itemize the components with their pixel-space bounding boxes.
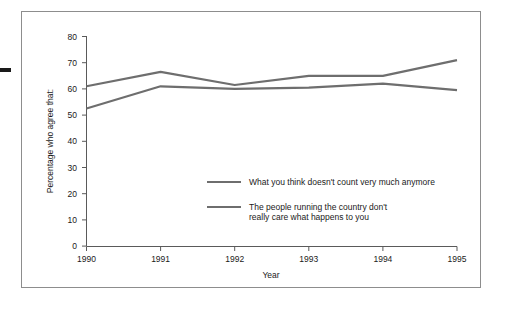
line-chart: 80 70 60 50 40 30 20 10 0 1990 1991 1992… — [0, 0, 509, 311]
y-axis-title: Percentage who agree that: — [45, 89, 55, 193]
series-line-1 — [87, 84, 458, 109]
y-tick-label-10: 10 — [68, 215, 78, 225]
y-tick-label-80: 80 — [68, 32, 78, 42]
x-tick-label-1993: 1993 — [299, 254, 318, 264]
x-tick-label-1994: 1994 — [373, 254, 392, 264]
x-tick-label-1992: 1992 — [225, 254, 244, 264]
chart-page: 80 70 60 50 40 30 20 10 0 1990 1991 1992… — [0, 0, 509, 311]
y-tick-label-0: 0 — [72, 241, 77, 251]
legend-label-1-line2: really care what happens to you — [249, 212, 369, 222]
x-tick-label-1991: 1991 — [151, 254, 170, 264]
x-tick-label-1995: 1995 — [448, 254, 467, 264]
x-tick-label-1990: 1990 — [77, 254, 96, 264]
legend-label-0: What you think doesn't count very much a… — [249, 177, 435, 187]
legend: What you think doesn't count very much a… — [207, 177, 435, 222]
y-tick-label-20: 20 — [68, 189, 78, 199]
x-axis-title: Year — [262, 270, 279, 280]
y-tick-label-70: 70 — [68, 58, 78, 68]
y-tick-label-60: 60 — [68, 84, 78, 94]
y-tick-label-40: 40 — [68, 136, 78, 146]
y-tick-label-30: 30 — [68, 163, 78, 173]
y-tick-marks — [82, 37, 87, 247]
y-tick-label-50: 50 — [68, 110, 78, 120]
legend-label-1-line1: The people running the country don't — [249, 202, 388, 212]
x-tick-marks — [87, 247, 458, 252]
series-line-0 — [87, 60, 458, 86]
